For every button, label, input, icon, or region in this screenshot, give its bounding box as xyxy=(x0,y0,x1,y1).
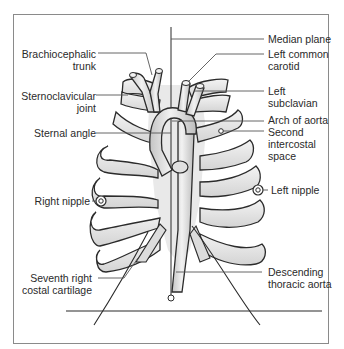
aortic-root xyxy=(172,161,188,173)
label-brachiocephalic-trunk: Brachiocephalic trunk xyxy=(22,48,96,72)
left-nipple-marker xyxy=(253,185,263,195)
label-left-subclavian: Left subclavian xyxy=(268,85,318,109)
label-left-nipple: Left nipple xyxy=(271,184,319,196)
label-seventh-right-costal-cartilage: Seventh right costal cartilage xyxy=(22,272,92,296)
right-nipple-marker xyxy=(96,196,106,206)
label-left-common-carotid: Left common carotid xyxy=(268,48,329,72)
label-descending-thoracic-aorta: Descending thoracic aorta xyxy=(268,266,332,290)
second-intercostal-marker xyxy=(219,129,224,134)
label-sternoclavicular-joint: Sternoclavicular joint xyxy=(21,90,96,114)
label-arch-of-aorta: Arch of aorta xyxy=(268,114,328,126)
label-second-intercostal-space: Second intercostal space xyxy=(268,126,316,162)
label-sternal-angle: Sternal angle xyxy=(34,127,96,139)
left-costal-margin xyxy=(192,226,260,325)
label-right-nipple: Right nipple xyxy=(35,195,90,207)
label-median-plane: Median plane xyxy=(268,33,331,45)
xiphoid-marker xyxy=(168,295,174,301)
